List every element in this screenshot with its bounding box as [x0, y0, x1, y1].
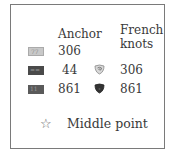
french-knots-header-line2: knots — [120, 38, 153, 51]
star-outline-icon: ☆ — [40, 117, 52, 130]
middle-point-label: Middle point — [67, 117, 148, 130]
anchor-header: Anchor — [58, 28, 102, 41]
french-knot-light-icon — [94, 64, 105, 75]
anchor-code: 306 — [58, 45, 81, 58]
anchor-code: 861 — [58, 83, 81, 96]
french-knot-dark-icon — [94, 83, 105, 94]
stitch-swatch-306: 77 — [28, 47, 44, 56]
french-knot-code: 861 — [120, 83, 143, 96]
stitch-swatch-44: == — [28, 66, 44, 75]
stitch-swatch-861: 11 — [28, 85, 44, 94]
french-knots-header-line1: French — [120, 24, 163, 37]
french-knot-code: 306 — [120, 64, 143, 77]
anchor-code: 44 — [62, 64, 77, 77]
